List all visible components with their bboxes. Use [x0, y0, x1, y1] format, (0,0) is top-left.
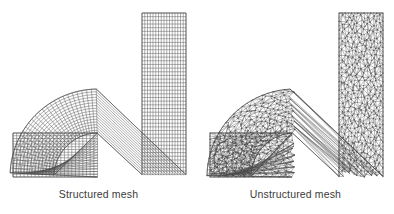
unstructured-mesh-drawing [197, 0, 394, 186]
panel-unstructured-mesh: Unstructured mesh [197, 0, 394, 214]
caption-structured-mesh: Structured mesh [0, 188, 197, 201]
structured-mesh-drawing [0, 0, 197, 186]
caption-unstructured-mesh: Unstructured mesh [197, 188, 394, 201]
panel-structured-mesh: Structured mesh [0, 0, 197, 214]
mesh-comparison-figure: Structured mesh Unstructured mesh [0, 0, 394, 214]
